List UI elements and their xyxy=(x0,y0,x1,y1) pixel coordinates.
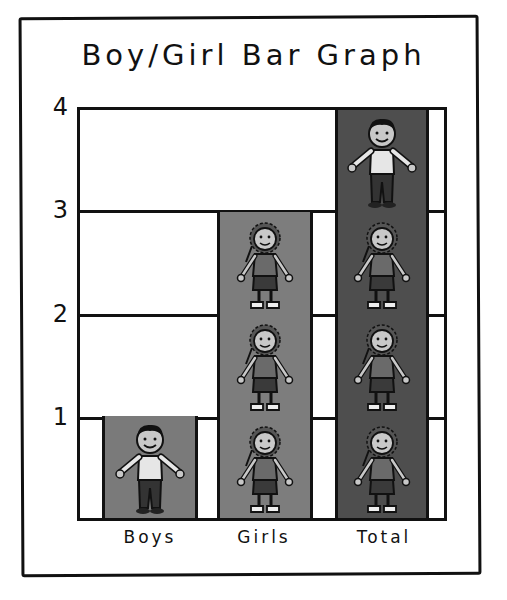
bar-girls xyxy=(217,212,313,518)
boy-figure-icon xyxy=(105,416,195,518)
girl-figure-icon xyxy=(338,212,426,314)
y-tick-4: 4 xyxy=(44,93,68,121)
girl-figure-icon xyxy=(220,212,310,314)
x-label-total: Total xyxy=(329,527,439,547)
girl-figure-icon xyxy=(220,416,310,518)
chart-title: Boy/Girl Bar Graph xyxy=(0,38,507,72)
y-tick-2: 2 xyxy=(44,300,68,328)
plot-area xyxy=(77,107,447,521)
girl-figure-icon xyxy=(338,314,426,416)
boy-figure-icon xyxy=(338,110,426,212)
x-label-girls: Girls xyxy=(209,527,319,547)
girl-figure-icon xyxy=(220,314,310,416)
girl-figure-icon xyxy=(338,416,426,518)
y-tick-3: 3 xyxy=(44,196,68,224)
bar-total xyxy=(335,110,429,518)
x-label-boys: Boys xyxy=(95,527,205,547)
y-tick-1: 1 xyxy=(44,403,68,431)
bar-boys xyxy=(102,416,198,518)
